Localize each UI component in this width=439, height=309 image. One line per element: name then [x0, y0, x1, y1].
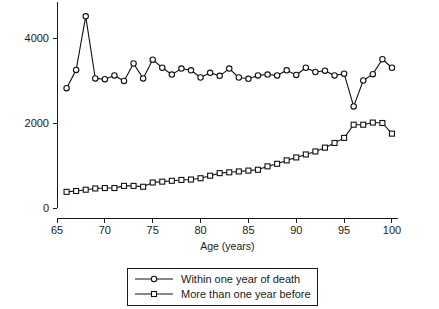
data-point-marker: [313, 69, 318, 74]
data-point-marker: [150, 57, 155, 62]
data-point-marker: [150, 180, 155, 185]
x-axis-title-group: Age (years): [200, 240, 254, 252]
x-tick-label: 95: [338, 224, 350, 236]
data-point-marker: [341, 71, 346, 76]
data-point-marker: [73, 67, 78, 72]
data-point-marker: [332, 140, 337, 145]
data-point-marker: [294, 72, 299, 77]
data-point-marker: [351, 104, 356, 109]
x-tick-label: 90: [290, 224, 302, 236]
y-tick-label: 4000: [25, 32, 49, 44]
y-tick-label: 0: [43, 202, 49, 214]
data-point-marker: [64, 189, 69, 194]
data-point-marker: [131, 61, 136, 66]
data-point-marker: [380, 121, 385, 126]
series-more-than-one-year: [64, 120, 394, 194]
data-point-marker: [83, 187, 88, 192]
data-point-marker: [389, 131, 394, 136]
data-point-marker: [102, 186, 107, 191]
data-point-marker: [198, 176, 203, 181]
x-tick-label: 65: [51, 224, 63, 236]
data-point-marker: [322, 68, 327, 73]
data-point-marker: [275, 161, 280, 166]
data-point-marker: [160, 65, 165, 70]
data-point-marker: [208, 173, 213, 178]
y-axis: 020004000: [25, 2, 57, 214]
data-point-marker: [361, 78, 366, 83]
x-tick-label: 75: [147, 224, 159, 236]
data-point-marker: [265, 72, 270, 77]
data-point-marker: [351, 122, 356, 127]
y-tick-label: 2000: [25, 117, 49, 129]
legend-label: Within one year of death: [181, 273, 300, 285]
data-point-marker: [64, 85, 69, 90]
data-point-marker: [74, 189, 79, 194]
data-point-marker: [93, 76, 98, 81]
data-point-marker: [121, 78, 126, 83]
data-point-marker: [217, 73, 222, 78]
legend-circle-marker-icon: [151, 276, 156, 281]
legend-label: More than one year before: [181, 288, 311, 300]
data-point-marker: [361, 122, 366, 127]
series-within-one-year: [64, 14, 395, 110]
data-point-marker: [188, 177, 193, 182]
series-polyline: [67, 16, 392, 106]
data-point-marker: [112, 186, 117, 191]
data-point-marker: [169, 72, 174, 77]
data-point-marker: [83, 14, 88, 19]
data-point-marker: [112, 73, 117, 78]
data-point-marker: [265, 164, 270, 169]
x-tick-label: 100: [383, 224, 401, 236]
data-point-marker: [160, 179, 165, 184]
x-tick-label: 70: [99, 224, 111, 236]
data-point-marker: [380, 57, 385, 62]
data-series-group: [64, 14, 395, 195]
data-point-marker: [93, 186, 98, 191]
data-point-marker: [217, 171, 222, 176]
x-tick-label: 80: [194, 224, 206, 236]
data-point-marker: [294, 155, 299, 160]
data-point-marker: [131, 183, 136, 188]
line-chart: 020004000 65707580859095100 Age (years) …: [0, 0, 439, 309]
data-point-marker: [179, 66, 184, 71]
x-tick-label: 85: [242, 224, 254, 236]
data-point-marker: [169, 178, 174, 183]
data-point-marker: [313, 149, 318, 154]
data-point-marker: [370, 71, 375, 76]
series-polyline: [67, 123, 392, 192]
data-point-marker: [389, 65, 394, 70]
data-point-marker: [303, 65, 308, 70]
data-point-marker: [246, 76, 251, 81]
data-point-marker: [322, 145, 327, 150]
data-point-marker: [342, 135, 347, 140]
data-point-marker: [198, 75, 203, 80]
data-point-marker: [102, 77, 107, 82]
data-point-marker: [140, 76, 145, 81]
legend-square-marker-icon: [152, 292, 157, 297]
data-point-marker: [227, 66, 232, 71]
data-point-marker: [188, 68, 193, 73]
data-point-marker: [370, 120, 375, 125]
chart-legend: Within one year of deathMore than one ye…: [127, 268, 317, 305]
data-point-marker: [121, 183, 126, 188]
data-point-marker: [332, 73, 337, 78]
data-point-marker: [274, 73, 279, 78]
data-point-marker: [284, 158, 289, 163]
data-point-marker: [246, 168, 251, 173]
data-point-marker: [236, 169, 241, 174]
data-point-marker: [255, 73, 260, 78]
data-point-marker: [207, 70, 212, 75]
x-axis: 65707580859095100: [51, 218, 401, 236]
data-point-marker: [227, 170, 232, 175]
data-point-marker: [284, 68, 289, 73]
data-point-marker: [141, 184, 146, 189]
data-point-marker: [236, 75, 241, 80]
data-point-marker: [255, 167, 260, 172]
data-point-marker: [303, 152, 308, 157]
chart-figure: 020004000 65707580859095100 Age (years) …: [0, 0, 439, 309]
data-point-marker: [179, 177, 184, 182]
x-axis-title: Age (years): [200, 240, 254, 252]
